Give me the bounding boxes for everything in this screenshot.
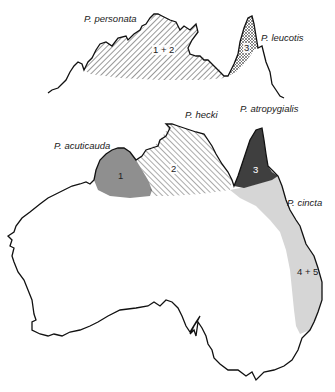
map-graphics (0, 0, 335, 392)
region-label-2: 2 (170, 164, 177, 174)
region-label-1: 1 (118, 171, 123, 181)
label-p-personata: P. personata (84, 14, 137, 24)
main-map (8, 124, 322, 380)
region-label-3: 3 (253, 165, 258, 175)
label-p-cincta: P. cincta (287, 198, 322, 208)
label-p-leucotis: P. leucotis (261, 33, 304, 43)
label-p-acuticauda: P. acuticauda (54, 141, 110, 151)
distribution-map-figure: P. personata P. leucotis 1 + 2 3 P. acut… (0, 0, 335, 392)
label-p-hecki: P. hecki (185, 110, 218, 120)
inset-region-label-1-2: 1 + 2 (152, 45, 175, 55)
inset-region-label-3: 3 (243, 43, 250, 53)
label-p-atropygialis: P. atropygialis (240, 104, 298, 114)
inset-map (48, 14, 284, 98)
region-2 (136, 124, 232, 196)
region-label-4-5: 4 + 5 (297, 267, 318, 277)
region-3 (234, 128, 278, 188)
